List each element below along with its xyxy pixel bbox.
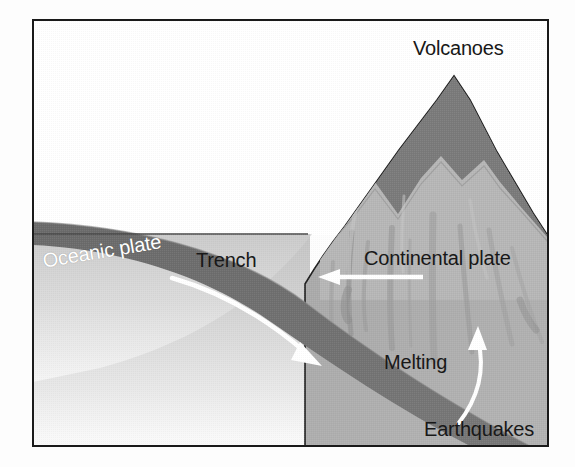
halftone-texture-overlay	[33, 20, 548, 446]
label-volcanoes: Volcanoes	[413, 37, 504, 60]
label-melting: Melting	[384, 351, 447, 374]
label-trench: Trench	[196, 249, 256, 272]
subduction-cross-section-svg	[0, 0, 575, 467]
diagram-content	[33, 20, 548, 446]
label-continental-plate: Continental plate	[364, 247, 511, 270]
label-earthquakes: Earthquakes	[424, 418, 534, 441]
geology-diagram-figure: Volcanoes Trench Continental plate Melti…	[0, 0, 575, 467]
